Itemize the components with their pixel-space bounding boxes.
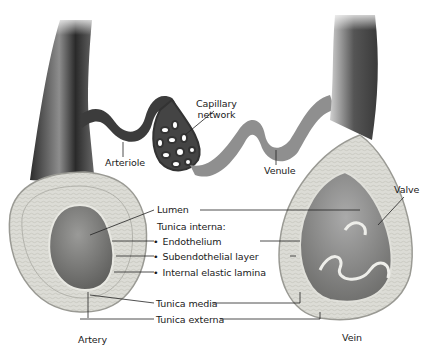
arteriole-label: Arteriole	[105, 157, 145, 168]
subendothelial-layer-label: Subendothelial layer	[153, 251, 259, 262]
vein-trunk	[330, 15, 378, 140]
vein-label: Vein	[342, 332, 362, 343]
tunica-externa-label: Tunica externa	[156, 314, 224, 325]
capillary-label-line2: network	[196, 109, 237, 120]
artery-cross-section	[9, 172, 146, 312]
internal-elastic-lamina-label: Internal elastic lamina	[153, 267, 266, 278]
blood-vessel-diagram: Capillary network Arteriole Venule Valve…	[0, 0, 430, 356]
endothelium-label: Endothelium	[153, 236, 221, 247]
artery-trunk	[30, 20, 95, 185]
tunica-interna-label: Tunica interna:	[157, 221, 226, 232]
tunica-media-label: Tunica media	[156, 298, 218, 309]
vein-cross-section	[279, 135, 412, 320]
valve-label: Valve	[394, 184, 419, 195]
lumen-label: Lumen	[157, 204, 189, 215]
artery-lumen	[49, 205, 113, 290]
capillary-network	[153, 100, 200, 170]
venule-label: Venule	[264, 165, 296, 176]
capillary-network-label: Capillary network	[196, 98, 237, 120]
capillary-label-line1: Capillary	[196, 98, 237, 109]
artery-label: Artery	[78, 334, 107, 345]
